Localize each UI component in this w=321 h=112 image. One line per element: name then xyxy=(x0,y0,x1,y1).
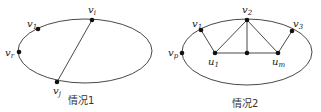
edge-vi-vj xyxy=(57,20,92,82)
vertex-label-u1: u1 xyxy=(208,56,219,69)
figure-case-2: v2v1v3vpu1um xyxy=(168,4,312,85)
edge-v1-u1 xyxy=(201,30,215,53)
vertex-vi xyxy=(90,18,95,23)
vertex-v2 xyxy=(245,18,250,23)
vertex-label-vj: vj xyxy=(53,85,62,98)
edge-um-v3 xyxy=(278,31,292,53)
vertex-label-v1: v1 xyxy=(27,18,37,31)
graph-diagram: viv1vrvj v2v1v3vpu1um 情况1 情况2 xyxy=(0,0,321,112)
vertex-vj xyxy=(55,80,60,85)
vertex-label-vp: vp xyxy=(168,47,179,60)
vertex-label-vr: vr xyxy=(5,47,15,60)
figure-case-1: viv1vrvj xyxy=(5,4,152,98)
edge-v2-um xyxy=(247,20,278,53)
vertex-label-um: um xyxy=(272,56,285,69)
vertex-mid xyxy=(245,51,250,56)
caption-case-2: 情况2 xyxy=(232,97,258,109)
vertex-vp xyxy=(180,51,185,56)
vertex-v3 xyxy=(290,29,295,34)
caption-case-1: 情况1 xyxy=(68,94,94,106)
vertex-label-vi: vi xyxy=(88,4,96,17)
vertex-um xyxy=(276,51,281,56)
vertex-u1 xyxy=(213,51,218,56)
edge-u1-v2 xyxy=(215,20,247,53)
vertex-label-v2: v2 xyxy=(242,4,253,17)
vertex-vr xyxy=(17,50,22,55)
vertex-label-v1: v1 xyxy=(192,18,202,31)
